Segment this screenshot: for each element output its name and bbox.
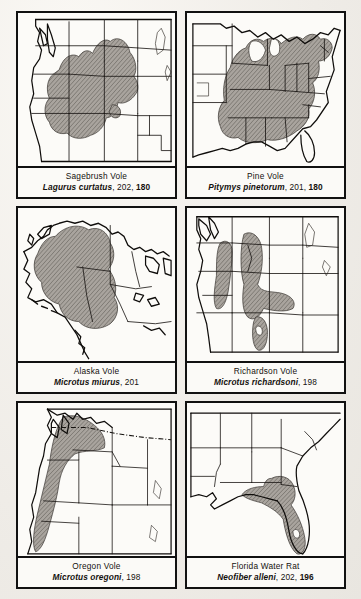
common-name-pine-vole: Pine Vole bbox=[189, 171, 342, 181]
scientific-name-sagebrush-vole: Lagurus curtatus bbox=[43, 182, 112, 192]
scientific-line-sagebrush-vole: Lagurus curtatus, 202, 180 bbox=[20, 182, 173, 193]
range-map-grid: Sagebrush Vole Lagurus curtatus, 202, 18… bbox=[16, 11, 346, 589]
scientific-line-alaska-vole: Microtus miurus, 201 bbox=[20, 377, 173, 388]
common-name-florida-water-rat: Florida Water Rat bbox=[189, 561, 342, 571]
common-name-sagebrush-vole: Sagebrush Vole bbox=[20, 171, 173, 181]
common-name-richardson-vole: Richardson Vole bbox=[189, 366, 342, 376]
page-ref-1-pine-vole: 201 bbox=[290, 182, 304, 192]
scientific-name-oregon-vole: Microtus oregoni bbox=[53, 572, 122, 582]
map-alaska-vole bbox=[18, 208, 175, 361]
page-ref-1-richardson-vole: 198 bbox=[303, 377, 317, 387]
page-ref-1-oregon-vole: 198 bbox=[126, 572, 140, 582]
panel-pine-vole: Pine Vole Pitymys pinetorum, 201, 180 bbox=[185, 11, 346, 199]
common-name-oregon-vole: Oregon Vole bbox=[20, 561, 173, 571]
map-oregon-vole bbox=[18, 403, 175, 556]
caption-richardson-vole: Richardson Vole Microtus richardsoni, 19… bbox=[187, 361, 344, 392]
map-florida-water-rat bbox=[187, 403, 344, 556]
panel-oregon-vole: Oregon Vole Microtus oregoni, 198 bbox=[16, 401, 177, 589]
panel-sagebrush-vole: Sagebrush Vole Lagurus curtatus, 202, 18… bbox=[16, 11, 177, 199]
scientific-name-florida-water-rat: Neofiber alleni bbox=[217, 572, 276, 582]
common-name-alaska-vole: Alaska Vole bbox=[20, 366, 173, 376]
caption-pine-vole: Pine Vole Pitymys pinetorum, 201, 180 bbox=[187, 166, 344, 197]
scientific-line-richardson-vole: Microtus richardsoni, 198 bbox=[189, 377, 342, 388]
page-ref-2-florida-water-rat: 196 bbox=[300, 572, 314, 582]
scientific-line-florida-water-rat: Neofiber alleni, 202, 196 bbox=[189, 572, 342, 583]
panel-richardson-vole: Richardson Vole Microtus richardsoni, 19… bbox=[185, 206, 346, 394]
caption-sagebrush-vole: Sagebrush Vole Lagurus curtatus, 202, 18… bbox=[18, 166, 175, 197]
page-ref-1-sagebrush-vole: 202 bbox=[117, 182, 131, 192]
map-pine-vole bbox=[187, 13, 344, 166]
scientific-line-pine-vole: Pitymys pinetorum, 201, 180 bbox=[189, 182, 342, 193]
page-ref-1-florida-water-rat: 202 bbox=[281, 572, 295, 582]
scientific-name-alaska-vole: Microtus miurus bbox=[54, 377, 120, 387]
caption-alaska-vole: Alaska Vole Microtus miurus, 201 bbox=[18, 361, 175, 392]
page-ref-1-alaska-vole: 201 bbox=[125, 377, 139, 387]
panel-florida-water-rat: Florida Water Rat Neofiber alleni, 202, … bbox=[185, 401, 346, 589]
map-richardson-vole bbox=[187, 208, 344, 361]
scientific-name-richardson-vole: Microtus richardsoni bbox=[214, 377, 298, 387]
panel-alaska-vole: Alaska Vole Microtus miurus, 201 bbox=[16, 206, 177, 394]
page-ref-2-sagebrush-vole: 180 bbox=[136, 182, 150, 192]
caption-florida-water-rat: Florida Water Rat Neofiber alleni, 202, … bbox=[187, 556, 344, 587]
map-sagebrush-vole bbox=[18, 13, 175, 166]
scientific-line-oregon-vole: Microtus oregoni, 198 bbox=[20, 572, 173, 583]
scientific-name-pine-vole: Pitymys pinetorum bbox=[208, 182, 284, 192]
caption-oregon-vole: Oregon Vole Microtus oregoni, 198 bbox=[18, 556, 175, 587]
page-ref-2-pine-vole: 180 bbox=[309, 182, 323, 192]
